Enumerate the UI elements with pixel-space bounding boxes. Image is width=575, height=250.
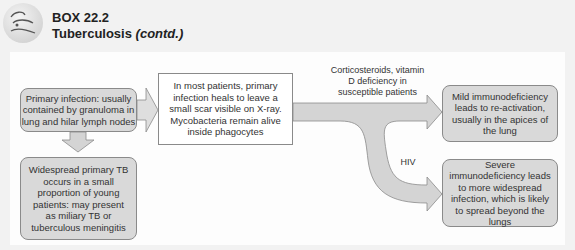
edge-label-mild: Corticosteroids, vitamin D deficiency in…	[330, 65, 425, 98]
node-text: Widespread primary TB occurs in a small …	[27, 164, 130, 233]
node-severe-immunodeficiency: Severe immunodeficiency leads to more wi…	[442, 159, 558, 227]
node-text: Severe immunodeficiency leads to more wi…	[448, 159, 552, 228]
node-text: Mild immunodeficiency leads to re-activa…	[448, 91, 552, 137]
node-widespread-primary-tb: Widespread primary TB occurs in a small …	[20, 157, 137, 240]
edge-label-severe: HIV	[398, 157, 418, 168]
node-primary-infection: Primary infection: usually contained by …	[20, 88, 137, 132]
arrow-down-icon	[62, 132, 94, 152]
node-infection-heals: In most patients, primary infection heal…	[158, 73, 293, 145]
node-mild-immunodeficiency: Mild immunodeficiency leads to re-activa…	[442, 85, 558, 142]
node-text: Primary infection: usually contained by …	[21, 93, 136, 128]
node-text: In most patients, primary infection heal…	[163, 80, 288, 138]
branch-arrow-icon	[293, 95, 442, 211]
arrow-right-icon	[137, 88, 158, 132]
